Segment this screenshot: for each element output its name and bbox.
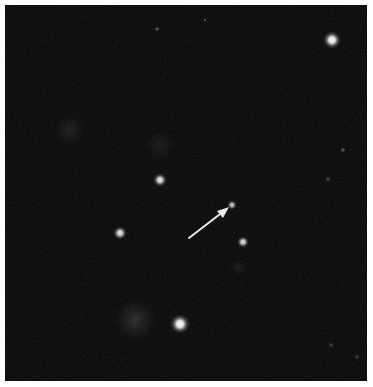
- nebula: [229, 258, 247, 276]
- star: [325, 176, 331, 182]
- astronomical-image: [5, 5, 367, 381]
- star: [227, 200, 237, 210]
- star: [170, 314, 190, 334]
- star: [354, 354, 360, 360]
- star: [153, 173, 167, 187]
- star: [113, 226, 127, 240]
- star: [203, 18, 207, 22]
- star: [154, 26, 160, 32]
- star: [328, 342, 334, 348]
- star: [323, 31, 341, 49]
- star: [340, 147, 346, 153]
- nebula: [113, 298, 157, 342]
- nebula: [144, 129, 176, 161]
- sky-field: [5, 5, 367, 381]
- nebula: [54, 114, 86, 146]
- star: [237, 236, 249, 248]
